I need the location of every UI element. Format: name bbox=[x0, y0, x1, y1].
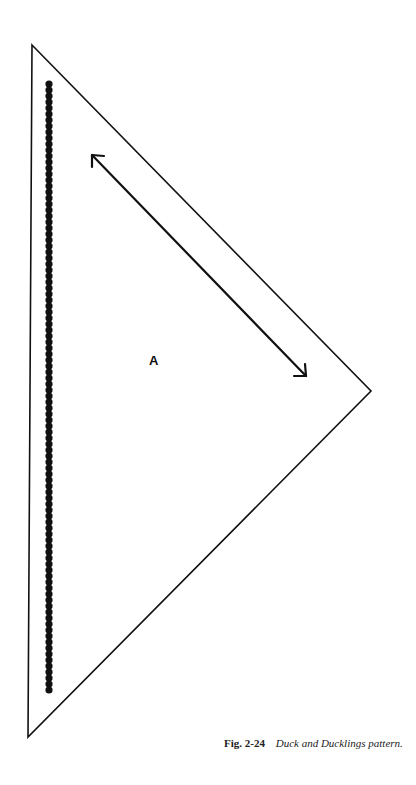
bead bbox=[45, 686, 52, 693]
seam-bead-line bbox=[45, 80, 52, 693]
pattern-piece-label: A bbox=[149, 353, 159, 368]
figure-title: Duck and Ducklings pattern. bbox=[276, 737, 403, 749]
figure-number: Fig. 2-24 bbox=[224, 737, 265, 749]
figure-caption: Fig. 2-24 Duck and Ducklings pattern. bbox=[224, 737, 403, 749]
pattern-figure: A bbox=[0, 0, 416, 785]
pattern-triangle-outline bbox=[28, 45, 371, 737]
grain-arrow-icon bbox=[92, 155, 306, 376]
